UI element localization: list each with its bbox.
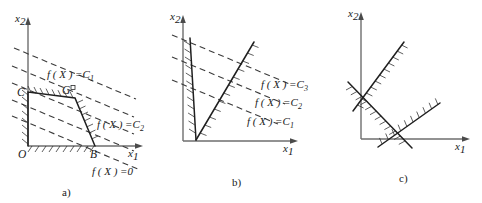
- panel-c-hatch-falling: [346, 87, 405, 145]
- panel-a-constraint-boundary: [28, 92, 95, 146]
- panel-c-constraint-rising-shallow: [378, 103, 440, 147]
- panel-b-objective-label-C1: f ( X ) =C1: [247, 115, 294, 130]
- panel-c-constraint-falling: [348, 82, 412, 148]
- linear-programming-figure: x2 x1: [0, 0, 482, 203]
- panel-a-objective-label-C1: f ( X ) =C1: [47, 68, 94, 83]
- panel-c-x-axis-label: x1: [454, 140, 465, 155]
- panel-c-y-axis-arrow: [358, 12, 364, 20]
- panel-a-objective-label-C2: f ( X ) =C2: [97, 118, 144, 133]
- panel-a-hatch-left: [22, 90, 28, 144]
- panel-a-caption: a): [62, 186, 71, 199]
- panel-b-objective-label-C2: f ( X ) =C2: [255, 96, 302, 111]
- panel-a-feasible-region: [28, 92, 95, 146]
- panel-a-point-label-C: C: [17, 86, 25, 98]
- panel-a-y-axis-label: x2: [14, 12, 26, 27]
- panel-c-hatch-rising-shallow: [380, 98, 438, 144]
- panel-a-hatch-bottom: [28, 146, 94, 152]
- panel-b-objective-label-C3: f ( X ) =C3: [261, 78, 308, 93]
- panel-a-hatch-right: [77, 100, 98, 139]
- panel-b-y-axis-arrow: [180, 15, 186, 23]
- panel-b-caption: b): [232, 176, 242, 189]
- panel-b-y-axis-label: x2: [169, 10, 181, 25]
- panel-b-x-axis-label: x1: [282, 142, 293, 157]
- panel-c-x-axis-arrow: [462, 136, 470, 142]
- panel-a-x-axis-arrow: [135, 143, 143, 149]
- panel-a-x-axis-label: x1: [127, 147, 138, 162]
- panel-b-constraints: [190, 38, 254, 140]
- panel-b: x2 x1: [169, 10, 308, 189]
- panel-c-y-axis-label: x2: [347, 7, 359, 22]
- panel-c: x2 x1: [346, 7, 470, 185]
- panel-a-y-axis-arrow: [25, 17, 31, 25]
- panel-c-axes: [358, 12, 470, 142]
- figure-container: x2 x1: [0, 0, 482, 203]
- panel-a-point-label-G: G: [62, 84, 71, 96]
- panel-c-caption: c): [399, 172, 408, 185]
- panel-b-hatch-left: [184, 41, 195, 133]
- panel-a-objective-label-0: f ( X ) =0: [92, 165, 134, 178]
- panel-a-point-marker-G: [71, 86, 75, 90]
- panel-b-x-axis-arrow: [290, 138, 298, 144]
- panel-a-point-label-O: O: [18, 148, 27, 160]
- panel-a: x2 x1: [12, 12, 144, 199]
- panel-a-point-label-B: B: [90, 148, 97, 160]
- panel-a-objective-contours: [12, 48, 140, 170]
